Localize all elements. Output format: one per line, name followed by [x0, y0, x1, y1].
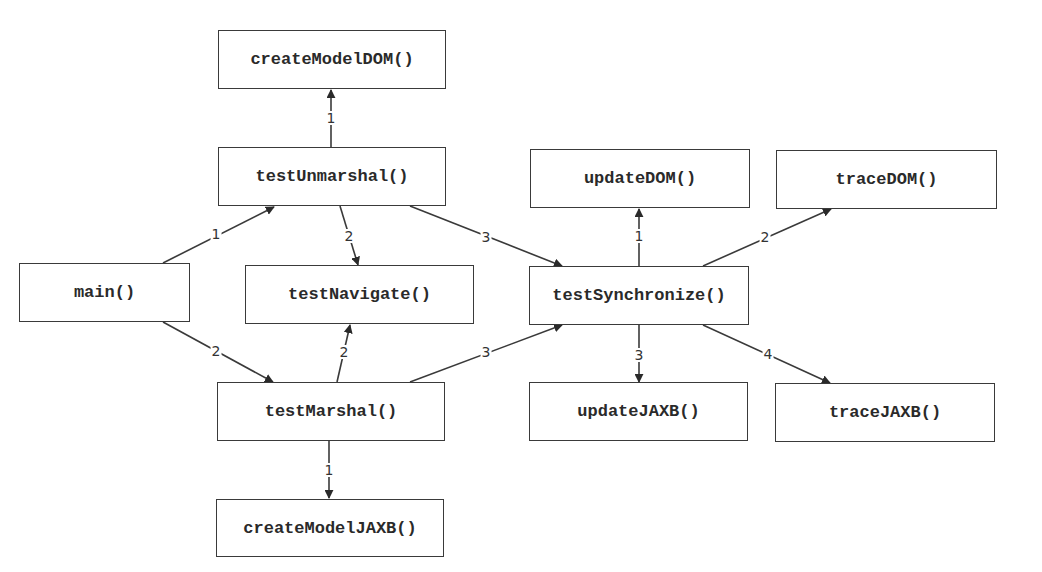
node-createModelDOM: createModelDOM(): [218, 30, 446, 89]
node-updateJAXB: updateJAXB(): [529, 382, 748, 441]
edge-label: 1: [324, 463, 335, 477]
node-main: main(): [19, 263, 190, 322]
node-label: testNavigate(): [288, 285, 431, 304]
node-label: traceDOM(): [835, 170, 937, 189]
node-traceDOM: traceDOM(): [776, 150, 997, 209]
node-testUnmarshal: testUnmarshal(): [218, 147, 446, 206]
node-label: main(): [74, 283, 135, 302]
node-label: testUnmarshal(): [255, 167, 408, 186]
edge-label: 1: [634, 229, 645, 243]
edge-label: 2: [344, 229, 355, 243]
node-label: createModelDOM(): [250, 50, 413, 69]
node-label: testSynchronize(): [552, 286, 725, 305]
node-testSynchronize: testSynchronize(): [529, 266, 749, 325]
node-label: createModelJAXB(): [243, 519, 416, 538]
node-testNavigate: testNavigate(): [245, 265, 474, 324]
edge-label: 2: [760, 230, 771, 244]
edge-label: 2: [339, 345, 350, 359]
edge-label: 1: [326, 111, 337, 125]
node-label: testMarshal(): [265, 402, 398, 421]
edge-label: 3: [481, 230, 492, 244]
node-traceJAXB: traceJAXB(): [775, 383, 995, 442]
edge-label: 1: [211, 227, 222, 241]
edge-label: 4: [763, 347, 774, 361]
edge-label: 3: [634, 348, 645, 362]
node-label: traceJAXB(): [829, 403, 941, 422]
call-graph-diagram: 121232311234createModelDOM()testUnmarsha…: [0, 0, 1042, 572]
node-testMarshal: testMarshal(): [217, 382, 445, 441]
edge-label: 3: [481, 345, 492, 359]
node-updateDOM: updateDOM(): [530, 149, 750, 208]
node-createModelJAXB: createModelJAXB(): [216, 499, 444, 557]
node-label: updateDOM(): [584, 169, 696, 188]
edge-label: 2: [211, 344, 222, 358]
node-label: updateJAXB(): [577, 402, 699, 421]
